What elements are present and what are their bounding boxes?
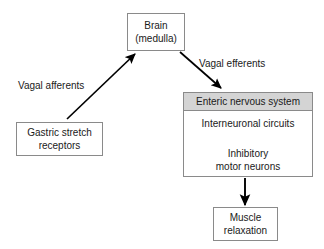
ens-inhibitory-line-2: motor neurons <box>184 160 312 173</box>
ens-inhibitory-motor-neurons-label: Inhibitory motor neurons <box>184 147 312 173</box>
node-gastric-line-2: receptors <box>39 139 81 152</box>
ens-header-label: Enteric nervous system <box>184 93 312 111</box>
node-brain[interactable]: Brain (medulla) <box>127 13 185 51</box>
label-vagal-afferents: Vagal afferents <box>18 80 84 92</box>
node-enteric-nervous-system[interactable]: Enteric nervous system Interneuronal cir… <box>183 92 313 177</box>
node-muscle-line-2: relaxation <box>224 224 267 237</box>
node-muscle-relaxation[interactable]: Muscle relaxation <box>213 207 278 241</box>
node-gastric-stretch-receptors[interactable]: Gastric stretch receptors <box>16 122 103 156</box>
ens-interneuronal-circuits-label: Interneuronal circuits <box>184 117 312 130</box>
node-brain-line-1: Brain <box>144 19 167 32</box>
node-muscle-line-1: Muscle <box>230 211 262 224</box>
flow-diagram: Brain (medulla) Gastric stretch receptor… <box>0 0 324 249</box>
node-brain-line-2: (medulla) <box>135 32 177 45</box>
label-vagal-efferents: Vagal efferents <box>199 58 265 70</box>
ens-body: Interneuronal circuits Inhibitory motor … <box>184 111 312 177</box>
node-gastric-line-1: Gastric stretch <box>27 126 91 139</box>
ens-inhibitory-line-1: Inhibitory <box>184 147 312 160</box>
